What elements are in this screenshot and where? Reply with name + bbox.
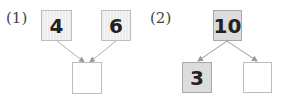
- number-box-6: 6: [101, 10, 131, 41]
- problem-2-label: (2): [150, 9, 171, 27]
- arrow-6-to-sum: [90, 41, 116, 62]
- arrow-10-to-blank: [227, 41, 257, 61]
- answer-box-sum[interactable]: [72, 62, 102, 94]
- arrow-4-to-sum: [57, 41, 84, 62]
- number-box-4: 4: [41, 10, 72, 41]
- problem-1-label: (1): [6, 9, 27, 27]
- arrow-10-to-3: [198, 41, 227, 61]
- number-box-3: 3: [182, 62, 212, 93]
- answer-box-missing-part[interactable]: [243, 62, 272, 93]
- number-box-10: 10: [213, 10, 242, 41]
